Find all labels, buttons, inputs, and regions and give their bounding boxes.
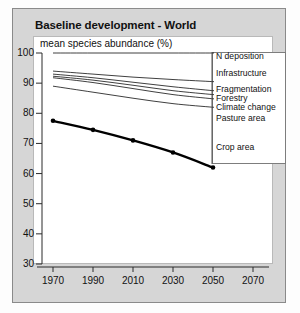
- legend-connector-ticks: [212, 52, 214, 168]
- legend-item-pasture-area: Pasture area: [216, 114, 265, 123]
- y-tick-label: 50: [10, 198, 34, 209]
- data-point-marker: [91, 128, 96, 133]
- x-tick-label: 2070: [236, 275, 270, 286]
- y-tick-label: 70: [10, 137, 34, 148]
- data-point-marker: [51, 119, 56, 124]
- data-point-marker: [171, 150, 176, 155]
- x-axis-ticks: [37, 267, 269, 272]
- x-tick-label: 1970: [36, 275, 70, 286]
- legend-item-crop-area: Crop area: [216, 143, 254, 152]
- y-tick-label: 60: [10, 168, 34, 179]
- y-axis-ticks: [36, 53, 42, 264]
- x-tick-label: 1990: [76, 275, 110, 286]
- y-tick-label: 80: [10, 107, 34, 118]
- y-tick-label: 40: [10, 228, 34, 239]
- y-tick-label: 30: [10, 258, 34, 269]
- legend-item-n-deposition: N deposition: [216, 52, 264, 61]
- data-point-marker: [131, 138, 136, 143]
- chart-svg: [0, 0, 300, 313]
- series-line: [53, 121, 213, 168]
- x-tick-label: 2010: [116, 275, 150, 286]
- series-lines: [51, 53, 216, 170]
- x-tick-label: 2030: [156, 275, 190, 286]
- x-tick-label: 2050: [196, 275, 230, 286]
- series-line: [53, 76, 213, 94]
- y-tick-label: 100: [10, 47, 34, 58]
- y-tick-label: 90: [10, 77, 34, 88]
- legend-item-climate-change: Climate change: [216, 103, 276, 112]
- legend-item-infrastructure: Infrastructure: [216, 69, 267, 78]
